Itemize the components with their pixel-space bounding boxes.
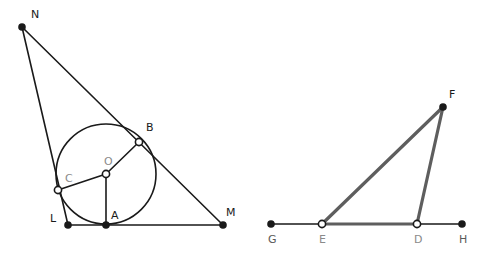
point-label-b: B [146,121,154,134]
point-marker-d [413,220,420,227]
point-label-e: E [319,233,326,246]
point-label-o: O [104,155,113,168]
point-marker-o [102,170,109,177]
point-marker-n [18,23,26,31]
point-marker-c [54,186,61,193]
point-label-m: M [226,206,236,219]
point-marker-a [102,221,110,229]
point-label-n: N [31,8,39,21]
point-marker-m [219,221,227,229]
geometry-figure-canvas: NBOCLAM FGEDH [0,0,485,264]
point-label-d: D [414,233,422,246]
point-marker-e [318,220,325,227]
point-marker-l [64,221,72,229]
point-marker-f [439,103,447,111]
point-label-f: F [449,88,455,101]
point-marker-h [458,220,466,228]
point-label-a: A [111,209,119,222]
point-marker-g [267,220,275,228]
point-label-c: C [65,172,73,185]
point-label-h: H [459,233,467,246]
point-label-l: L [50,212,57,225]
point-marker-b [135,138,142,145]
point-label-g: G [268,233,277,246]
